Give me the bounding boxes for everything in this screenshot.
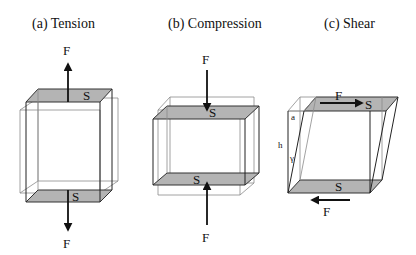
surface-label-bottom: S <box>72 189 79 204</box>
force-label-bottom: F <box>323 204 330 219</box>
deformed-box <box>26 89 112 202</box>
panel-title-tension: (a) Tension <box>32 16 95 32</box>
surface-label-top: S <box>83 88 90 103</box>
panel-shear: (c) Shear F S S F a h γ <box>278 16 398 219</box>
panel-tension: (a) Tension F F S S <box>20 16 118 251</box>
surface-label-top: S <box>365 97 372 112</box>
panel-title-compression: (b) Compression <box>168 16 262 32</box>
top-surface-tension <box>26 89 112 102</box>
force-label-bottom: F <box>202 230 209 245</box>
force-label-top: F <box>202 52 209 67</box>
displacement-label: a <box>291 112 295 122</box>
original-box-outline <box>20 98 118 193</box>
surface-label-top: S <box>209 105 216 120</box>
panel-compression: (b) Compression F F S S <box>153 16 262 245</box>
top-surface-compression <box>153 106 259 119</box>
bottom-surface-compression <box>153 173 259 185</box>
surface-label-bottom: S <box>335 179 342 194</box>
deformation-diagram: (a) Tension F F S S (b) Compression <box>0 0 416 255</box>
bottom-surface-tension <box>26 190 112 202</box>
shear-angle-label: γ <box>289 153 294 163</box>
height-label: h <box>278 140 283 150</box>
surface-label-bottom: S <box>193 172 200 187</box>
force-label-top: F <box>335 88 342 103</box>
panel-title-shear: (c) Shear <box>324 16 375 32</box>
force-label-top: F <box>63 43 70 58</box>
top-surface-shear <box>304 97 398 111</box>
force-label-bottom: F <box>63 236 70 251</box>
